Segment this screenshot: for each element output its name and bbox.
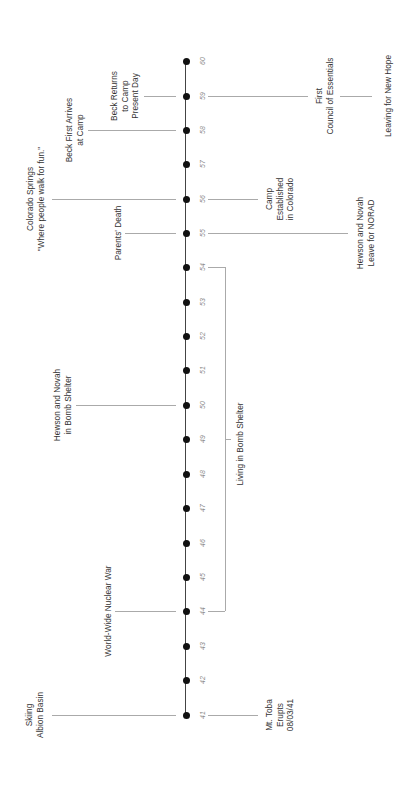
leader-line [144, 96, 176, 97]
year-label: 48 [199, 470, 206, 478]
year-label: 45 [199, 573, 206, 581]
timeline-axis [185, 61, 186, 715]
span-label: Living in Bomb Shelter [235, 402, 246, 485]
year-dot [183, 540, 190, 547]
year-dot [183, 299, 190, 306]
year-label: 49 [199, 435, 206, 443]
event-label: First Council of Essentials [314, 57, 335, 134]
year-dot [183, 677, 190, 684]
leader-line [208, 199, 258, 200]
span-bottom-stub [208, 611, 225, 612]
timeline-diagram: 4142434445464748495051525354555657585960… [0, 0, 407, 787]
event-label: World-Wide Nuclear War [103, 565, 114, 656]
year-label: 42 [199, 676, 206, 684]
year-label: 53 [199, 298, 206, 306]
year-dot [183, 402, 190, 409]
year-dot [183, 608, 190, 615]
year-dot [183, 471, 190, 478]
leader-line [340, 96, 372, 97]
event-label: Beck First Arrives at Camp [64, 98, 85, 163]
year-label: 43 [199, 642, 206, 650]
year-label: 58 [199, 126, 206, 134]
event-label: Hewson and Novah Leave for NORAD [355, 197, 376, 269]
year-label: 60 [199, 57, 206, 65]
span-top-stub [208, 267, 225, 268]
year-dot [183, 127, 190, 134]
year-dot [183, 58, 190, 65]
event-label: Camp Established in Colorado [264, 178, 296, 221]
year-dot [183, 230, 190, 237]
year-label: 52 [199, 332, 206, 340]
year-label: 51 [199, 366, 206, 374]
leader-line [208, 233, 348, 234]
year-label: 44 [199, 607, 206, 615]
year-dot [183, 264, 190, 271]
year-label: 59 [199, 92, 206, 100]
leader-line [88, 130, 176, 131]
year-dot [183, 643, 190, 650]
year-dot [183, 436, 190, 443]
leader-line [76, 405, 176, 406]
leader-line [115, 611, 176, 612]
year-label: 50 [199, 401, 206, 409]
year-dot [183, 367, 190, 374]
year-dot [183, 505, 190, 512]
year-dot [183, 333, 190, 340]
year-label: 41 [199, 711, 206, 719]
event-label: Hewson and Novah in Bomb Shelter [52, 369, 73, 441]
span-mid-tick [225, 439, 231, 440]
event-label: Parents' Death [113, 206, 124, 261]
year-dot [183, 93, 190, 100]
event-label: Mt. Toba Erupts 08/03/41 [264, 699, 296, 731]
event-label: Leaving for New Hope [383, 55, 394, 137]
year-dot [183, 161, 190, 168]
year-label: 54 [199, 263, 206, 271]
year-label: 47 [199, 504, 206, 512]
leader-line [208, 715, 258, 716]
event-label: Colorado Springs "Where people walk for … [25, 147, 46, 252]
leader-line [125, 233, 176, 234]
year-dot [183, 196, 190, 203]
year-label: 55 [199, 229, 206, 237]
event-label: Skiing Albion Basin [24, 692, 45, 738]
year-dot [183, 712, 190, 719]
leader-line [208, 96, 308, 97]
year-label: 46 [199, 539, 206, 547]
leader-line [52, 715, 176, 716]
year-dot [183, 574, 190, 581]
year-label: 56 [199, 195, 206, 203]
event-label: Beck Returns to Camp Present Day [109, 71, 141, 121]
year-label: 57 [199, 160, 206, 168]
leader-line [52, 199, 176, 200]
